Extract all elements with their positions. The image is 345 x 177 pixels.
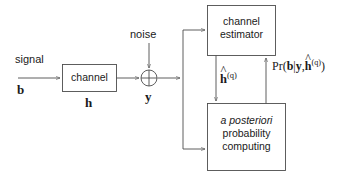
- diagram-lines-layer: [0, 0, 345, 177]
- noise-label: noise: [130, 28, 156, 41]
- posterior-prefix: Pr(: [272, 59, 287, 73]
- channel-estimate-hat-wrap: ^h: [220, 72, 227, 86]
- signal-label: signal: [15, 53, 44, 66]
- posterior-suffix: ): [321, 59, 325, 73]
- posterior-superscript: (q): [311, 58, 321, 67]
- block-diagram-canvas: signal b channel h noise y channel estim…: [0, 0, 345, 177]
- channel-estimator-line2: estimator: [207, 28, 276, 41]
- channel-estimate-label: ^h(q): [220, 71, 237, 87]
- app-computing-block-label: a posteriori probability computing: [207, 114, 286, 153]
- signal-symbol-label: b: [17, 83, 24, 98]
- channel-estimate-superscript: (q): [227, 70, 237, 80]
- app-computing-line3: computing: [207, 140, 286, 153]
- app-computing-line1: a posteriori: [207, 114, 286, 127]
- received-symbol-label: y: [145, 90, 152, 105]
- channel-estimator-line1: channel: [207, 15, 276, 28]
- channel-block-label: channel: [62, 71, 117, 84]
- posterior-hat-wrap: ^h: [305, 60, 312, 74]
- app-computing-line2: probability: [207, 127, 286, 140]
- posterior-probability-label: Pr(b|y,^h(q)): [272, 58, 325, 74]
- channel-estimator-block-label: channel estimator: [207, 15, 276, 41]
- channel-symbol-label: h: [85, 96, 92, 111]
